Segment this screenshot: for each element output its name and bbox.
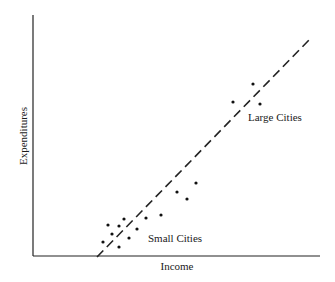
data-point <box>135 227 138 230</box>
data-point <box>110 232 113 235</box>
data-point <box>175 190 178 193</box>
x-axis-label: Income <box>161 260 194 272</box>
y-axis-label: Expenditures <box>17 107 29 165</box>
data-point <box>127 236 130 239</box>
data-point <box>194 181 197 184</box>
data-point <box>144 216 147 219</box>
data-point <box>117 245 120 248</box>
data-point <box>231 100 234 103</box>
annotation-large-cities: Large Cities <box>248 111 302 123</box>
data-point <box>159 213 162 216</box>
data-point <box>251 82 254 85</box>
data-point <box>122 217 125 220</box>
data-point <box>117 224 120 227</box>
data-point <box>185 197 188 200</box>
data-point <box>106 223 109 226</box>
data-point <box>101 240 104 243</box>
annotation-small-cities: Small Cities <box>148 232 202 244</box>
data-point <box>258 102 261 105</box>
data-points <box>101 82 261 248</box>
regression-line <box>97 39 310 257</box>
scatter-chart: Income Expenditures Small Cities Large C… <box>0 0 335 282</box>
